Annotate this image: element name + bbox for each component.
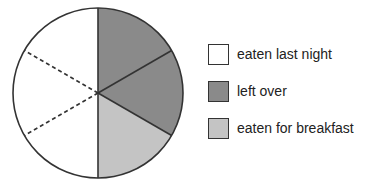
legend-item-left-over: left over [208, 79, 354, 103]
pie-chart [0, 0, 200, 189]
legend-swatch [208, 118, 229, 139]
legend: eaten last night left over eaten for bre… [208, 42, 354, 153]
legend-item-eaten-last-night: eaten last night [208, 42, 354, 66]
legend-label: eaten for breakfast [237, 120, 354, 136]
legend-swatch [208, 81, 229, 102]
legend-item-eaten-for-breakfast: eaten for breakfast [208, 116, 354, 140]
legend-swatch [208, 44, 229, 65]
legend-label: left over [237, 83, 287, 99]
legend-label: eaten last night [237, 46, 332, 62]
